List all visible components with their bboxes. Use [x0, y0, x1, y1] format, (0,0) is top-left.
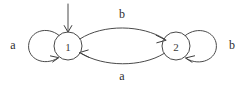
transition-label-2-to-1: a — [119, 69, 125, 83]
transition-2-to-1 — [79, 50, 163, 64]
transition-label-loop-2: b — [229, 38, 235, 52]
edge-1-2-path — [80, 28, 165, 39]
start-arrow — [64, 4, 72, 32]
automaton-diagram: 1 2 a b a b — [0, 0, 245, 85]
state-label-1: 1 — [65, 41, 71, 53]
transition-label-1-to-2: b — [119, 7, 125, 21]
state-label-2: 2 — [173, 41, 179, 53]
automaton-canvas: 1 2 a b a b — [0, 0, 245, 85]
edge-2-1-path — [81, 53, 164, 63]
edge-1-2-arrow-head-icon — [156, 35, 166, 43]
transition-1-to-2 — [80, 28, 166, 43]
transition-label-loop-1: a — [10, 38, 16, 52]
